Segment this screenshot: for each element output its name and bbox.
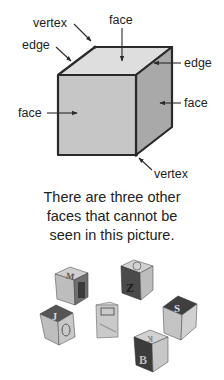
label-edge-right: edge xyxy=(184,56,212,70)
vertex-dot xyxy=(93,45,96,48)
arrow-vertex-bottom xyxy=(139,158,152,170)
caption-line: seen in this picture. xyxy=(0,226,224,245)
block-letter: S xyxy=(174,302,180,314)
label-vertex-bottom: vertex xyxy=(154,167,189,181)
label-edge-left: edge xyxy=(22,38,50,52)
block-letter: Z xyxy=(126,281,134,295)
block-z: Z xyxy=(121,260,153,300)
block-s: S xyxy=(163,296,197,340)
alphabet-blocks-photo: M Z J S K B xyxy=(0,250,224,380)
label-face-right: face xyxy=(184,96,208,110)
arrow-vertex-top xyxy=(74,24,91,41)
caption-line: There are three other xyxy=(0,188,224,207)
block-m: M xyxy=(55,267,88,305)
block-b: K B xyxy=(134,330,168,372)
label-vertex-top: vertex xyxy=(33,16,68,30)
cube-front-face xyxy=(58,75,136,155)
label-face-left: face xyxy=(18,106,42,120)
block-letter: J xyxy=(52,311,57,322)
label-face-top: face xyxy=(109,13,133,27)
caption: There are three other faces that cannot … xyxy=(0,188,224,245)
caption-line: faces that cannot be xyxy=(0,207,224,226)
cube-diagram: vertex face edge edge face face vertex xyxy=(0,0,224,185)
block-letter: K xyxy=(147,334,153,343)
vertex-dot xyxy=(134,153,138,157)
block-center xyxy=(96,302,118,338)
block-letter: B xyxy=(139,353,147,367)
arrow-edge-left xyxy=(56,47,71,61)
block-j: J xyxy=(40,305,75,345)
